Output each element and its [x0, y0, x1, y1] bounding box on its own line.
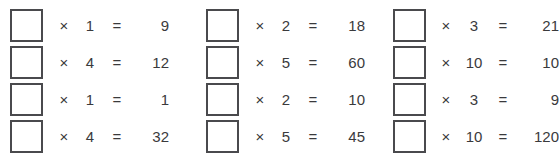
equation-row: × 2 = 18 — [206, 7, 376, 44]
answer-input-box[interactable] — [393, 9, 426, 42]
equals-sign: = — [103, 92, 131, 107]
equation-row: × 3 = 9 — [393, 81, 553, 118]
multiplier-value: 5 — [273, 129, 299, 144]
multiplier-value: 2 — [273, 18, 299, 33]
answer-input-box[interactable] — [206, 46, 239, 79]
multiplication-sign: × — [247, 129, 273, 144]
multiplier-value: 10 — [459, 129, 489, 144]
equation-row: × 3 = 21 — [393, 7, 553, 44]
answer-input-box[interactable] — [10, 120, 43, 153]
equals-sign: = — [299, 92, 327, 107]
equals-sign: = — [489, 92, 517, 107]
answer-input-box[interactable] — [393, 83, 426, 116]
multiplier-value: 4 — [77, 55, 103, 70]
multiplication-sign: × — [433, 92, 459, 107]
multiplier-value: 2 — [273, 92, 299, 107]
worksheet-column-2: × 2 = 18 × 5 = 60 × 2 = 10 × 5 = 45 — [190, 0, 376, 155]
result-value: 9 — [517, 92, 559, 107]
equals-sign: = — [103, 55, 131, 70]
multiplier-value: 10 — [459, 55, 489, 70]
equals-sign: = — [299, 55, 327, 70]
equals-sign: = — [103, 18, 131, 33]
multiplication-sign: × — [433, 18, 459, 33]
equals-sign: = — [489, 18, 517, 33]
answer-input-box[interactable] — [206, 120, 239, 153]
result-value: 9 — [131, 18, 169, 33]
result-value: 21 — [517, 18, 559, 33]
multiplication-sign: × — [247, 92, 273, 107]
answer-input-box[interactable] — [10, 46, 43, 79]
equation-row: × 2 = 10 — [206, 81, 376, 118]
result-value: 120 — [517, 129, 559, 144]
answer-input-box[interactable] — [206, 83, 239, 116]
worksheet-column-3: × 3 = 21 × 10 = 10 × 3 = 9 × 10 = 120 — [376, 0, 553, 155]
answer-input-box[interactable] — [10, 9, 43, 42]
multiplier-value: 4 — [77, 129, 103, 144]
equation-row: × 4 = 12 — [10, 44, 190, 81]
multiplication-sign: × — [433, 55, 459, 70]
multiplication-sign: × — [433, 129, 459, 144]
multiplier-value: 3 — [459, 18, 489, 33]
equation-row: × 10 = 120 — [393, 118, 553, 155]
equation-row: × 1 = 9 — [10, 7, 190, 44]
equals-sign: = — [489, 129, 517, 144]
equals-sign: = — [103, 129, 131, 144]
multiplier-value: 1 — [77, 92, 103, 107]
worksheet-column-1: × 1 = 9 × 4 = 12 × 1 = 1 × 4 = 32 — [0, 0, 190, 155]
equals-sign: = — [299, 18, 327, 33]
equation-row: × 10 = 10 — [393, 44, 553, 81]
multiplication-sign: × — [247, 18, 273, 33]
equals-sign: = — [489, 55, 517, 70]
equation-row: × 5 = 45 — [206, 118, 376, 155]
answer-input-box[interactable] — [393, 46, 426, 79]
equals-sign: = — [299, 129, 327, 144]
multiplier-value: 3 — [459, 92, 489, 107]
multiplication-sign: × — [51, 18, 77, 33]
equation-row: × 5 = 60 — [206, 44, 376, 81]
equation-row: × 1 = 1 — [10, 81, 190, 118]
answer-input-box[interactable] — [393, 120, 426, 153]
result-value: 18 — [327, 18, 365, 33]
multiplication-sign: × — [51, 92, 77, 107]
multiplier-value: 1 — [77, 18, 103, 33]
answer-input-box[interactable] — [206, 9, 239, 42]
multiplication-sign: × — [51, 55, 77, 70]
result-value: 10 — [327, 92, 365, 107]
result-value: 60 — [327, 55, 365, 70]
result-value: 32 — [131, 129, 169, 144]
multiplier-value: 5 — [273, 55, 299, 70]
result-value: 12 — [131, 55, 169, 70]
multiplication-sign: × — [51, 129, 77, 144]
answer-input-box[interactable] — [10, 83, 43, 116]
multiplication-sign: × — [247, 55, 273, 70]
result-value: 45 — [327, 129, 365, 144]
result-value: 1 — [131, 92, 169, 107]
equation-row: × 4 = 32 — [10, 118, 190, 155]
result-value: 10 — [517, 55, 559, 70]
